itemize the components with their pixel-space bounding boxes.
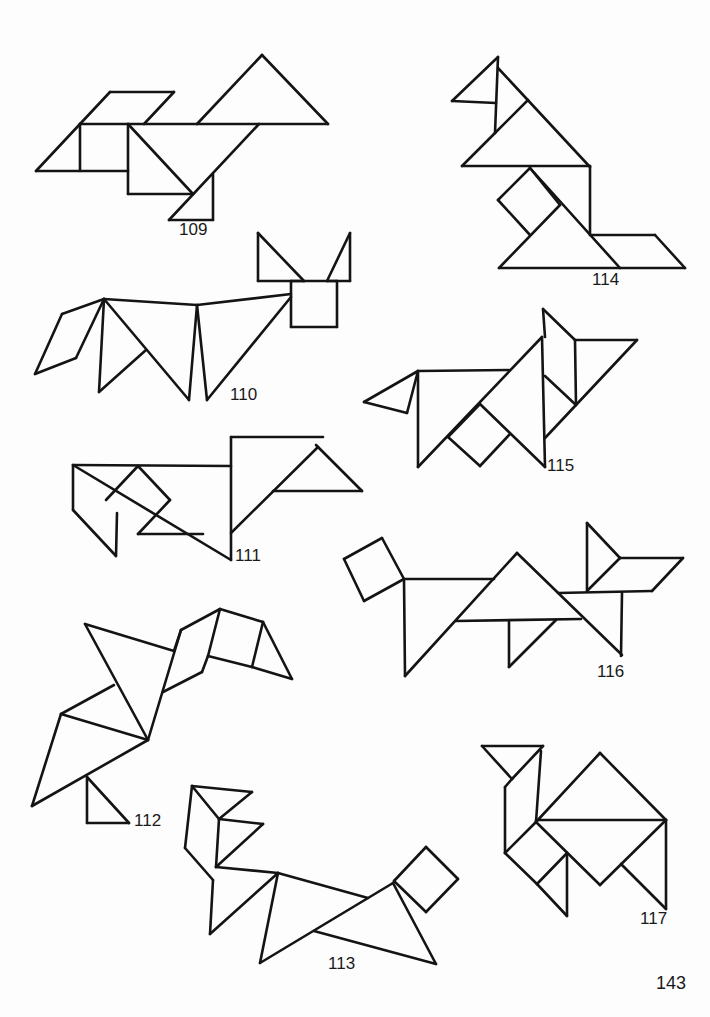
figure-edge — [498, 200, 530, 235]
figure-edge — [621, 593, 622, 656]
figure-label-112: 112 — [134, 812, 161, 829]
figure-edge — [558, 591, 652, 593]
figure-edge — [452, 57, 498, 101]
figure-edge — [210, 880, 213, 934]
figure-edge — [36, 124, 80, 171]
figure-label-111: 111 — [235, 547, 261, 564]
figure-edge — [452, 101, 496, 103]
figure-edge — [517, 553, 622, 655]
figure-edge — [480, 434, 510, 466]
figure-edge — [382, 538, 404, 579]
figure-edge — [220, 609, 263, 622]
figure-edge — [426, 879, 458, 912]
figure-label-117: 117 — [640, 910, 667, 927]
figure-edge — [61, 685, 114, 714]
figure-edge — [252, 622, 263, 667]
tangram-figure-114 — [452, 57, 685, 268]
tangram-figure-117 — [482, 746, 666, 916]
tangram-figure-109 — [36, 55, 328, 220]
figure-edge — [185, 848, 213, 880]
figure-edge — [537, 884, 567, 916]
figure-edge — [327, 233, 350, 281]
figure-edge — [364, 579, 404, 601]
figure-edge — [509, 620, 556, 667]
figure-edge — [73, 465, 231, 466]
figure-edge — [87, 777, 129, 823]
figure-edge — [587, 558, 620, 591]
figure-edge — [404, 579, 405, 676]
figure-edge — [344, 538, 382, 559]
figure-edge — [600, 753, 666, 820]
tangram-drawing — [0, 0, 710, 1017]
figure-edge — [116, 513, 117, 556]
figure-edge — [128, 124, 193, 194]
tangram-figure-113 — [185, 786, 458, 964]
figure-edge — [219, 819, 263, 824]
figure-edge — [197, 294, 291, 305]
figure-edge — [185, 786, 192, 848]
figure-label-116: 116 — [597, 663, 624, 680]
figure-edge — [208, 609, 220, 656]
figure-edge — [655, 235, 685, 268]
figure-edge — [144, 92, 174, 124]
figure-edge — [364, 402, 407, 413]
figure-label-114: 114 — [592, 271, 619, 288]
book-page: 109110111112113114115116117 143 — [0, 0, 710, 1017]
figure-edge — [530, 168, 620, 268]
figure-edge — [216, 867, 278, 873]
figure-edge — [505, 779, 512, 787]
figure-edge — [575, 340, 576, 405]
figure-label-113: 113 — [328, 955, 355, 972]
figure-edge — [543, 309, 575, 340]
figure-edge — [587, 523, 620, 558]
tangram-figure-111 — [73, 437, 362, 560]
figure-edge — [208, 656, 252, 667]
figure-edge — [456, 619, 581, 621]
figure-label-115: 115 — [547, 457, 574, 474]
figure-edge — [536, 753, 600, 822]
figure-edge — [344, 559, 364, 601]
figure-edge — [499, 205, 560, 268]
figure-edge — [405, 553, 517, 676]
figure-edge — [104, 299, 197, 305]
figure-edge — [138, 466, 170, 500]
figure-edge — [138, 500, 170, 534]
tangram-figure-112 — [32, 609, 292, 823]
figure-edge — [542, 337, 545, 467]
figure-edge — [498, 168, 530, 200]
figure-edge — [192, 786, 252, 792]
tangram-figure-115 — [364, 309, 637, 467]
figure-edge — [536, 751, 541, 822]
figure-edge — [99, 299, 104, 392]
tangram-figure-110 — [35, 233, 350, 400]
figure-edge — [73, 510, 116, 556]
figure-edge — [278, 873, 368, 898]
page-number: 143 — [656, 973, 686, 994]
figure-edge — [448, 404, 480, 437]
figure-edge — [197, 305, 207, 400]
figure-edge — [393, 883, 436, 964]
figure-edge — [482, 746, 512, 779]
figure-edge — [260, 883, 393, 963]
figure-edge — [480, 404, 545, 467]
figure-edge — [545, 376, 576, 405]
figure-edge — [316, 445, 362, 491]
figure-edge — [189, 305, 197, 400]
figure-edge — [448, 437, 480, 466]
figure-edge — [216, 819, 219, 867]
figure-edge — [543, 309, 545, 337]
figure-edge — [216, 824, 263, 867]
figure-edge — [202, 656, 208, 672]
tangram-figure-116 — [344, 523, 683, 676]
figure-edge — [505, 853, 537, 884]
figure-label-110: 110 — [230, 386, 257, 403]
figure-edge — [652, 558, 683, 591]
figure-edge — [80, 92, 110, 124]
figure-edge — [262, 55, 328, 124]
figure-edge — [192, 786, 219, 819]
figure-edge — [197, 55, 262, 124]
figure-edge — [99, 350, 146, 392]
figure-edge — [258, 233, 304, 281]
figure-edge — [426, 847, 458, 879]
figure-edge — [418, 370, 509, 371]
